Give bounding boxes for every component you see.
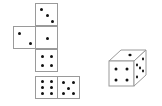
cube-3d [0, 0, 162, 106]
